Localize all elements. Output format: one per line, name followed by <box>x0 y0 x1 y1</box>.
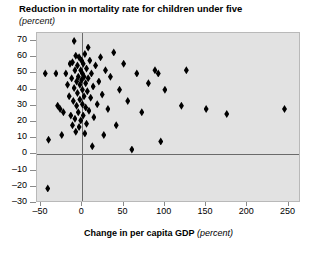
data-point-marker <box>117 86 122 94</box>
data-point-marker <box>84 65 89 73</box>
y-axis-tick: 30 <box>30 105 36 106</box>
chart-title-block: Reduction in mortality rate for children… <box>19 3 309 27</box>
data-point-marker <box>59 131 64 139</box>
x-axis-tick-label: 0 <box>79 206 84 216</box>
data-point-marker <box>162 86 167 94</box>
data-point-marker <box>96 78 101 86</box>
data-point-marker <box>224 110 229 118</box>
y-axis-tick-label: 40 <box>17 83 27 93</box>
data-point-marker <box>63 69 68 77</box>
data-point-marker <box>129 146 134 154</box>
data-point-marker <box>72 37 77 45</box>
y-axis-tick-label: 30 <box>17 99 27 109</box>
y-axis-tick: –30 <box>30 202 36 203</box>
data-point-marker <box>71 97 76 105</box>
data-point-marker <box>134 69 139 77</box>
y-axis-tick: 70 <box>30 40 36 41</box>
y-axis-tick-label: –20 <box>12 180 27 190</box>
data-point-marker <box>70 121 75 129</box>
y-axis-tick: 0 <box>30 153 36 154</box>
chart-subtitle: (percent) <box>19 15 309 27</box>
data-point-marker <box>67 92 72 100</box>
scatter-plot-area <box>36 32 300 202</box>
data-point-marker <box>111 48 116 56</box>
y-axis-tick-label: 20 <box>17 115 27 125</box>
y-axis-tick: 50 <box>30 72 36 73</box>
x-axis-tick-label: 250 <box>280 206 295 216</box>
data-point-marker <box>282 105 287 113</box>
data-point-marker <box>204 105 209 113</box>
zero-line-horizontal <box>37 154 299 155</box>
data-point-marker <box>125 97 130 105</box>
data-point-marker <box>100 91 105 99</box>
data-point-marker <box>72 84 77 92</box>
y-axis-tick: 10 <box>30 137 36 138</box>
y-axis-tick-label: 0 <box>22 147 27 157</box>
y-axis-tick: 60 <box>30 56 36 57</box>
data-point-marker <box>93 61 98 69</box>
data-point-marker <box>139 108 144 116</box>
y-axis-tick: –20 <box>30 186 36 187</box>
data-point-marker <box>88 94 93 102</box>
data-point-marker <box>158 137 163 145</box>
data-point-marker <box>86 44 91 52</box>
y-axis-tick-label: –10 <box>12 164 27 174</box>
data-point-marker <box>43 69 48 77</box>
data-point-marker <box>85 87 90 95</box>
data-point-marker <box>53 69 58 77</box>
x-axis-tick-label: 200 <box>239 206 254 216</box>
data-point-marker <box>114 121 119 129</box>
data-point-marker <box>121 60 126 68</box>
data-point-marker <box>69 74 74 82</box>
y-axis-tick-label: 10 <box>17 131 27 141</box>
data-point-marker <box>75 89 80 97</box>
data-point-marker <box>91 113 96 121</box>
data-point-marker <box>91 82 96 90</box>
x-axis-label-main: Change in per capita GDP <box>84 228 195 238</box>
page-title: Reduction in mortality rate for children… <box>19 3 309 15</box>
y-axis-tick-label: –30 <box>12 196 27 206</box>
x-axis-label: Change in per capita GDP (percent) <box>0 228 317 238</box>
y-axis-tick: 20 <box>30 121 36 122</box>
data-point-marker <box>179 102 184 110</box>
y-axis-tick-label: 70 <box>17 34 27 44</box>
data-point-marker <box>108 73 113 81</box>
x-axis-tick-label: 50 <box>118 206 128 216</box>
x-axis-tick-label: 150 <box>198 206 213 216</box>
data-point-marker <box>146 79 151 87</box>
y-axis-tick: –10 <box>30 170 36 171</box>
data-point-marker <box>73 128 78 136</box>
data-point-marker <box>89 69 94 77</box>
data-point-marker <box>103 66 108 74</box>
y-axis-tick-label: 50 <box>17 66 27 76</box>
data-point-marker <box>87 57 92 65</box>
plot-inner-canvas <box>37 33 299 201</box>
data-point-marker <box>84 120 89 128</box>
x-axis-tick-label: 100 <box>156 206 171 216</box>
data-point-marker <box>98 53 103 61</box>
data-point-marker <box>95 100 100 108</box>
data-point-marker <box>72 115 77 123</box>
y-axis-tick-label: 60 <box>17 50 27 60</box>
x-axis-tick-label: –50 <box>33 206 48 216</box>
data-point-marker <box>101 131 106 139</box>
data-point-marker <box>184 66 189 74</box>
data-point-marker <box>90 142 95 150</box>
data-point-marker <box>68 112 73 120</box>
data-point-marker <box>65 81 70 89</box>
data-point-marker <box>105 105 110 113</box>
data-point-marker <box>46 136 51 144</box>
x-axis-label-unit: (percent) <box>197 228 233 238</box>
data-point-marker <box>45 184 50 192</box>
y-axis-tick: 40 <box>30 89 36 90</box>
